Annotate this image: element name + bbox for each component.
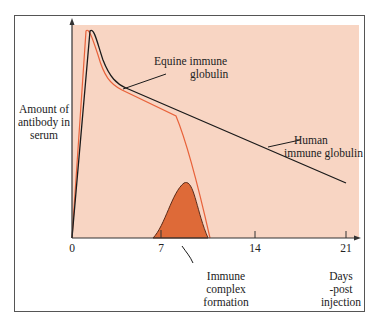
- human-label-line-2: immune globulin: [280, 147, 366, 160]
- x-axis-label-line-2: -post: [318, 283, 364, 296]
- complex-label-line-2: complex: [196, 283, 256, 296]
- x-axis-label-line-3: injection: [318, 296, 364, 309]
- y-axis-label-line-1: Amount of: [16, 103, 72, 116]
- tick-label-7: 7: [155, 242, 167, 255]
- tick-label-21: 21: [337, 242, 355, 255]
- human-label-line-1: Human: [280, 134, 366, 147]
- y-axis-label-line-2: antibody in: [16, 116, 72, 129]
- equine-label: Equine immune globulin: [148, 55, 238, 81]
- y-axis-label-line-3: serum: [16, 129, 72, 142]
- tick-label-14: 14: [246, 242, 264, 255]
- complex-label-line-1: Immune: [196, 270, 256, 283]
- complex-label: Immune complex formation: [196, 270, 256, 309]
- complex-leader: [182, 246, 193, 263]
- x-axis-label: Days -post injection: [318, 270, 364, 309]
- x-axis-label-line-1: Days: [318, 270, 364, 283]
- complex-label-line-3: formation: [196, 296, 256, 309]
- equine-label-line-2: globulin: [148, 68, 238, 81]
- y-axis-arrow-icon: [70, 18, 75, 25]
- human-label: Human immune globulin: [280, 134, 366, 160]
- equine-label-line-1: Equine immune: [148, 55, 238, 68]
- y-axis-label: Amount of antibody in serum: [16, 103, 72, 142]
- tick-label-0: 0: [66, 242, 78, 255]
